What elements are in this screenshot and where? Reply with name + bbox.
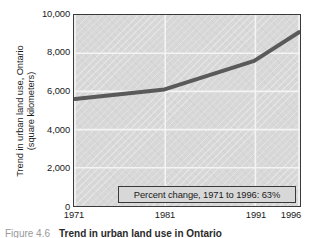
y-tick-label: 8,000	[28, 47, 70, 57]
figure-caption-title: Trend in urban land use in Ontario	[59, 228, 222, 238]
x-tick-label: 1981	[145, 209, 185, 220]
percent-change-annotation-text: Percent change, 1971 to 1996: 63%	[134, 189, 280, 200]
y-tick-label: 6,000	[28, 86, 70, 96]
figure-caption-label: Figure 4.6	[5, 228, 50, 238]
data-series-line	[75, 32, 299, 99]
x-tick-label: 1971	[54, 209, 94, 220]
y-axis-tick-labels: 10,000 8,000 6,000 4,000 2,000 0	[26, 0, 70, 238]
x-tick-label: 1991	[236, 209, 276, 220]
y-tick-label: 2,000	[28, 163, 70, 173]
figure-container: Trend in urban land use, Ontario (square…	[0, 0, 312, 238]
y-tick-label: 4,000	[28, 125, 70, 135]
gridlines-vertical	[75, 15, 299, 206]
y-axis-title-line-1: Trend in urban land use, Ontario	[14, 45, 26, 176]
figure-caption: Figure 4.6Trend in urban land use in Ont…	[5, 228, 305, 238]
chart-plot-svg	[74, 15, 300, 206]
x-axis-tick-labels: 1971 1981 1991 1996	[0, 209, 312, 223]
x-tick-label: 1996	[271, 209, 311, 220]
gridlines-horizontal	[74, 53, 300, 168]
y-tick-label: 10,000	[28, 9, 70, 19]
percent-change-annotation: Percent change, 1971 to 1996: 63%	[118, 186, 296, 203]
plot-area	[73, 14, 301, 207]
